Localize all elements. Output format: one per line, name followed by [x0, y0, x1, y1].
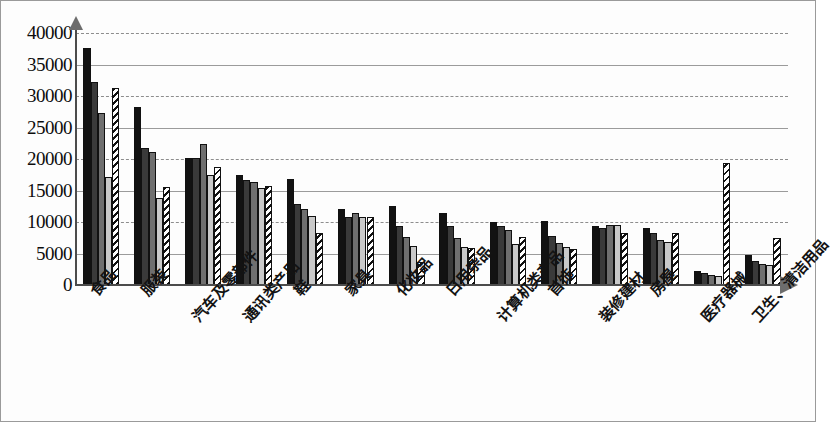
category-label: 食品	[87, 266, 119, 299]
category-label: 房屋	[647, 266, 679, 299]
category-label: 卫生、清洁用品	[749, 236, 831, 325]
category-label: 家具	[342, 266, 374, 299]
category-label: 医疗器械	[698, 269, 750, 324]
category-label: 日用杂品	[443, 243, 495, 298]
category-label: 服装	[138, 266, 170, 299]
category-label: 化妆品	[393, 255, 435, 299]
category-label: 装修建材	[596, 269, 648, 324]
category-label: 鞋	[291, 277, 313, 299]
